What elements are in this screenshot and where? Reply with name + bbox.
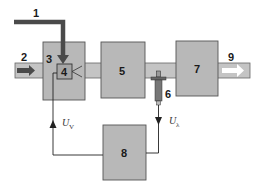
label-1: 1	[33, 7, 39, 19]
ul-signal-line	[146, 105, 159, 153]
label-7: 7	[194, 63, 200, 75]
label-9: 9	[228, 51, 234, 63]
ul-subscript: λ	[176, 121, 180, 129]
label-3: 3	[46, 53, 52, 65]
label-2: 2	[21, 51, 27, 63]
block-diagram: 1 2 3 4 5 6 7 8 9 U V U λ	[0, 0, 255, 191]
label-8: 8	[121, 147, 127, 159]
label-6: 6	[165, 88, 171, 100]
label-5: 5	[119, 65, 125, 77]
up-arrow-icon	[50, 120, 57, 128]
down-arrow-icon	[155, 117, 162, 125]
label-4: 4	[61, 66, 68, 78]
uv-subscript: V	[69, 123, 74, 131]
